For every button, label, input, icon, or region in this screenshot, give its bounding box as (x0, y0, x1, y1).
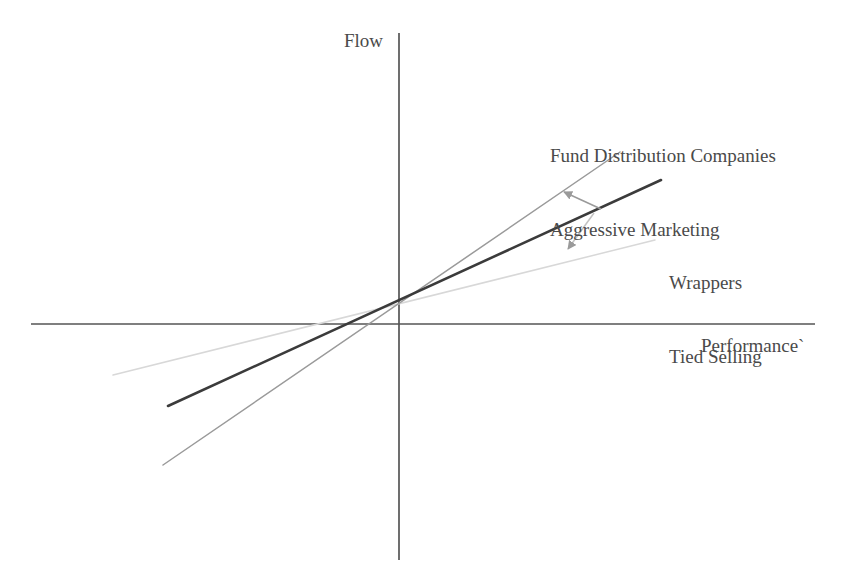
y-axis-label: Flow (344, 29, 383, 54)
annotation-flat-line-1: Wrappers (669, 271, 762, 296)
annotation-flat-line-2: Tied Selling (669, 345, 762, 370)
flow-performance-diagram: Flow Performance` Fund Distribution Comp… (0, 0, 843, 582)
annotation-wrappers-tied-selling: Wrappers Tied Selling (669, 222, 762, 420)
annotation-steep-line-1: Fund Distribution Companies (550, 144, 776, 169)
